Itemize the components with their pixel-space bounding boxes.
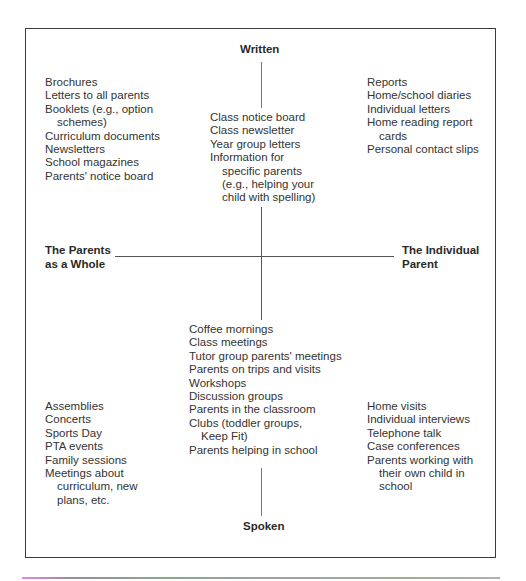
list-item: School magazines bbox=[45, 156, 160, 169]
list-item-continuation: child with spelling) bbox=[210, 191, 315, 204]
list-item-text: Coffee mornings bbox=[189, 323, 342, 336]
list-spoken-whole: AssembliesConcertsSports DayPTA eventsFa… bbox=[45, 400, 138, 507]
list-item: Parents helping in school bbox=[189, 444, 342, 457]
list-item: Clubs (toddler groups,Keep Fit) bbox=[189, 417, 342, 444]
list-item: Parents' notice board bbox=[45, 170, 160, 183]
list-item-text: Home reading report bbox=[367, 116, 479, 129]
list-item-text: Clubs (toddler groups, bbox=[189, 417, 342, 430]
list-written-center: Class notice boardClass newsletterYear g… bbox=[210, 111, 315, 205]
list-item: PTA events bbox=[45, 440, 138, 453]
list-item: Family sessions bbox=[45, 454, 138, 467]
list-item-continuation: Keep Fit) bbox=[189, 430, 342, 443]
list-item: Assemblies bbox=[45, 400, 138, 413]
list-item-text: Discussion groups bbox=[189, 390, 342, 403]
list-written-individual: ReportsHome/school diariesIndividual let… bbox=[367, 76, 479, 156]
list-item: Meetings aboutcurriculum, newplans, etc. bbox=[45, 467, 138, 507]
list-spoken-individual: Home visitsIndividual interviewsTelephon… bbox=[367, 400, 473, 494]
list-item: Parents on trips and visits bbox=[189, 363, 342, 376]
list-item-text: Brochures bbox=[45, 76, 160, 89]
list-item: Newsletters bbox=[45, 143, 160, 156]
list-item-text: Class newsletter bbox=[210, 124, 315, 137]
list-item: Coffee mornings bbox=[189, 323, 342, 336]
list-item-text: Meetings about bbox=[45, 467, 138, 480]
pole-parents-as-whole: The Parents as a Whole bbox=[45, 243, 111, 271]
pole-label-line: The Parents bbox=[45, 243, 111, 257]
list-item-continuation: plans, etc. bbox=[45, 494, 138, 507]
list-item: Class newsletter bbox=[210, 124, 315, 137]
list-item: Brochures bbox=[45, 76, 160, 89]
list-item-text: Tutor group parents' meetings bbox=[189, 350, 342, 363]
list-item-text: Year group letters bbox=[210, 138, 315, 151]
list-item-text: Sports Day bbox=[45, 427, 138, 440]
list-item-text: Letters to all parents bbox=[45, 89, 160, 102]
list-item-text: Case conferences bbox=[367, 440, 473, 453]
list-item-text: Parents helping in school bbox=[189, 444, 342, 457]
list-item-text: Information for bbox=[210, 151, 315, 164]
list-spoken-center: Coffee morningsClass meetingsTutor group… bbox=[189, 323, 342, 457]
list-item-continuation: schemes) bbox=[45, 116, 160, 129]
list-item-text: Class notice board bbox=[210, 111, 315, 124]
list-item-text: PTA events bbox=[45, 440, 138, 453]
list-item: Home visits bbox=[367, 400, 473, 413]
list-item-text: Individual letters bbox=[367, 103, 479, 116]
list-item: Individual interviews bbox=[367, 413, 473, 426]
list-item-text: Home/school diaries bbox=[367, 89, 479, 102]
list-item-text: Telephone talk bbox=[367, 427, 473, 440]
list-item-continuation: curriculum, new bbox=[45, 480, 138, 493]
pole-label-line: as a Whole bbox=[45, 257, 111, 271]
list-item: Booklets (e.g., optionschemes) bbox=[45, 103, 160, 130]
list-item: Curriculum documents bbox=[45, 130, 160, 143]
list-item-text: Workshops bbox=[189, 377, 342, 390]
list-item: Individual letters bbox=[367, 103, 479, 116]
list-item: Personal contact slips bbox=[367, 143, 479, 156]
list-item-continuation: their own child in bbox=[367, 467, 473, 480]
list-item-text: Concerts bbox=[45, 413, 138, 426]
list-item: Year group letters bbox=[210, 138, 315, 151]
list-item: Case conferences bbox=[367, 440, 473, 453]
list-item-text: Curriculum documents bbox=[45, 130, 160, 143]
list-item: Reports bbox=[367, 76, 479, 89]
list-item: Parents in the classroom bbox=[189, 403, 342, 416]
pole-spoken: Spoken bbox=[243, 519, 285, 533]
list-item-continuation: cards bbox=[367, 130, 479, 143]
list-item-text: Parents on trips and visits bbox=[189, 363, 342, 376]
list-item-text: Parents' notice board bbox=[45, 170, 160, 183]
list-item-text: Individual interviews bbox=[367, 413, 473, 426]
bottom-rule bbox=[22, 577, 500, 579]
list-item-text: Class meetings bbox=[189, 336, 342, 349]
horizontal-axis bbox=[115, 256, 394, 257]
vertical-axis-top bbox=[261, 62, 262, 108]
pole-label-line: Parent bbox=[402, 257, 479, 271]
list-item: Sports Day bbox=[45, 427, 138, 440]
list-item-text: Booklets (e.g., option bbox=[45, 103, 160, 116]
list-item-text: Family sessions bbox=[45, 454, 138, 467]
list-item-continuation: school bbox=[367, 480, 473, 493]
list-item: Tutor group parents' meetings bbox=[189, 350, 342, 363]
list-item-text: School magazines bbox=[45, 156, 160, 169]
list-item: Home reading reportcards bbox=[367, 116, 479, 143]
list-item: Letters to all parents bbox=[45, 89, 160, 102]
pole-written: Written bbox=[240, 42, 279, 56]
pole-label-line: The Individual bbox=[402, 243, 479, 257]
list-item: Class meetings bbox=[189, 336, 342, 349]
list-item: Home/school diaries bbox=[367, 89, 479, 102]
list-item-text: Personal contact slips bbox=[367, 143, 479, 156]
pole-individual-parent: The Individual Parent bbox=[402, 243, 479, 271]
list-item-continuation: (e.g., helping your bbox=[210, 178, 315, 191]
list-item: Telephone talk bbox=[367, 427, 473, 440]
list-item-continuation: specific parents bbox=[210, 165, 315, 178]
list-item-text: Assemblies bbox=[45, 400, 138, 413]
vertical-axis-bottom bbox=[261, 468, 262, 516]
list-item-text: Reports bbox=[367, 76, 479, 89]
list-item: Concerts bbox=[45, 413, 138, 426]
list-item-text: Parents working with bbox=[367, 454, 473, 467]
list-item: Parents working withtheir own child insc… bbox=[367, 454, 473, 494]
list-item-text: Home visits bbox=[367, 400, 473, 413]
list-item-text: Newsletters bbox=[45, 143, 160, 156]
list-item: Workshops bbox=[189, 377, 342, 390]
list-written-whole: BrochuresLetters to all parentsBooklets … bbox=[45, 76, 160, 183]
list-item: Class notice board bbox=[210, 111, 315, 124]
list-item-text: Parents in the classroom bbox=[189, 403, 342, 416]
list-item: Information forspecific parents(e.g., he… bbox=[210, 151, 315, 205]
list-item: Discussion groups bbox=[189, 390, 342, 403]
